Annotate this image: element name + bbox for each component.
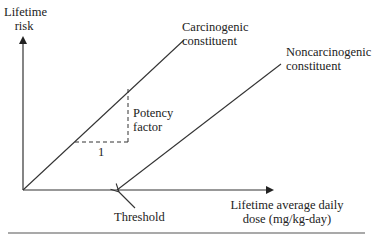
noncarcinogenic-label-line-1: Noncarcinogenic (286, 45, 371, 59)
noncarcinogenic-label-line-2: constituent (286, 59, 371, 73)
carcinogenic-label: Carcinogenic constituent (182, 20, 249, 48)
potency-factor-label-line-1: Potency (133, 106, 173, 120)
threshold-label: Threshold (114, 210, 165, 224)
slope-run-label: 1 (98, 145, 104, 159)
noncarcinogenic-label: Noncarcinogenic constituent (286, 45, 371, 73)
x-axis-label-line-1: Lifetime average daily (222, 198, 352, 212)
x-axis-label: Lifetime average daily dose (mg/kg-day) (222, 198, 352, 226)
y-axis-label-line-2: risk (4, 19, 44, 33)
x-axis-label-line-2: dose (mg/kg-day) (222, 212, 352, 226)
y-axis-label: Lifetime risk (4, 5, 44, 33)
potency-factor-label: Potency factor (133, 106, 173, 134)
carcinogenic-label-line-1: Carcinogenic (182, 20, 249, 34)
threshold-arrow (119, 192, 135, 208)
dose-response-diagram: Lifetime risk Carcinogenic constituent N… (0, 0, 373, 237)
carcinogenic-label-line-2: constituent (182, 34, 249, 48)
potency-factor-label-line-2: factor (133, 120, 173, 134)
y-axis-label-line-1: Lifetime (4, 5, 44, 19)
